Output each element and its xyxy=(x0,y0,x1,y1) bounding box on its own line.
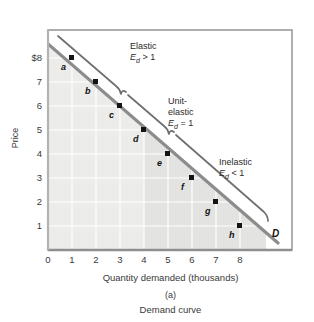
figure-caption: Demand curve xyxy=(48,304,293,315)
elastic-relation: > 1 xyxy=(140,52,155,62)
panel-letter: (a) xyxy=(48,290,293,300)
marker-c xyxy=(117,103,122,108)
x-tick-8: 8 xyxy=(233,254,247,265)
point-label-g: g xyxy=(205,206,211,216)
annotation-unit-title-line1: Unit- xyxy=(168,96,194,107)
x-axis-title: Quantity demanded (thousands) xyxy=(48,272,293,283)
x-tick-6: 6 xyxy=(185,254,199,265)
demand-curve-label: D xyxy=(272,228,279,239)
x-tick-1: 1 xyxy=(65,254,79,265)
x-tick-0: 0 xyxy=(41,254,55,265)
point-label-d: d xyxy=(133,134,139,144)
annotation-inelastic-title: Inelastic xyxy=(219,157,252,168)
marker-g xyxy=(213,199,218,204)
unit-relation: = 1 xyxy=(178,118,193,128)
x-tick-4: 4 xyxy=(137,254,151,265)
annotation-elastic: Elastic Ed > 1 xyxy=(130,41,157,66)
y-tick-4: 4 xyxy=(16,148,42,159)
marker-e xyxy=(165,151,170,156)
y-tick-8: $8 xyxy=(16,52,42,63)
point-label-a: a xyxy=(61,62,66,72)
point-label-h: h xyxy=(229,230,235,240)
y-tick-5: 5 xyxy=(16,124,42,135)
point-label-e: e xyxy=(157,158,162,168)
inelastic-relation: < 1 xyxy=(229,168,244,178)
point-label-f: f xyxy=(181,182,184,192)
point-label-c: c xyxy=(109,110,114,120)
y-tick-1: 1 xyxy=(16,220,42,231)
annotation-elastic-formula: Ed > 1 xyxy=(130,52,157,66)
y-tick-3: 3 xyxy=(16,172,42,183)
annotation-elastic-title: Elastic xyxy=(130,41,157,52)
x-tick-3: 3 xyxy=(113,254,127,265)
point-label-b: b xyxy=(85,86,91,96)
annotation-unit-elastic: Unit- elastic Ed = 1 xyxy=(168,96,194,132)
marker-h xyxy=(237,223,242,228)
x-tick-5: 5 xyxy=(161,254,175,265)
annotation-unit-formula: Ed = 1 xyxy=(168,118,194,132)
marker-a xyxy=(69,55,74,60)
marker-b xyxy=(93,79,98,84)
y-tick-6: 6 xyxy=(16,100,42,111)
x-tick-2: 2 xyxy=(89,254,103,265)
marker-d xyxy=(141,127,146,132)
demand-curve-figure: Price Quantity demanded (thousands) (a) … xyxy=(0,0,314,322)
y-tick-7: 7 xyxy=(16,76,42,87)
x-tick-7: 7 xyxy=(209,254,223,265)
annotation-inelastic: Inelastic Ed < 1 xyxy=(219,157,252,182)
y-tick-2: 2 xyxy=(16,196,42,207)
annotation-inelastic-formula: Ed < 1 xyxy=(219,168,252,182)
marker-f xyxy=(189,175,194,180)
annotation-unit-title-line2: elastic xyxy=(168,107,194,118)
